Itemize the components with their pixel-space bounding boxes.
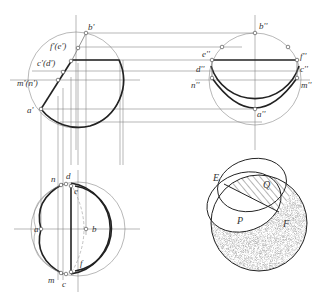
label-mn-prime: m'(n') [17, 78, 38, 88]
label-m-double: m'' [301, 80, 312, 90]
label-c: c [62, 279, 66, 289]
point-a-top [39, 227, 43, 231]
point-cd-front [69, 59, 73, 63]
label-a-prime: a' [27, 105, 35, 115]
point-mn-front [56, 78, 60, 82]
point-n-side [210, 76, 214, 80]
point-a-front [39, 107, 43, 111]
label-e-double: e'' [202, 49, 211, 59]
top-view: n d e a b f m c [14, 170, 140, 292]
label-m: m [48, 275, 55, 285]
label-f-double: f'' [300, 51, 307, 61]
label-fe-prime: f'(e') [50, 41, 66, 51]
front-view: b' f'(e') c'(d') m'(n') a' [10, 15, 140, 150]
label-b-prime: b' [88, 22, 96, 32]
label-a-double: a'' [257, 109, 266, 119]
label-d: d [66, 171, 71, 181]
point-m-side [295, 76, 299, 80]
point-e-top [69, 184, 73, 188]
point-d-top [64, 182, 68, 186]
point-fe-front [76, 46, 80, 50]
label-f: f [80, 258, 84, 268]
point-f-side [286, 45, 290, 49]
label-e: e [74, 186, 78, 196]
axonometric-view: E Q P F [198, 151, 307, 271]
label-b-double: b'' [259, 21, 268, 31]
label-c-double: c'' [300, 64, 309, 74]
label-P: P [236, 215, 243, 226]
point-b-side [253, 31, 257, 35]
point-f-top [69, 270, 73, 274]
point-c-top [64, 272, 68, 276]
label-F: F [282, 218, 290, 229]
point-x-front [61, 70, 65, 74]
point-c-side [295, 58, 299, 62]
label-b: b [92, 224, 97, 234]
side-view: b'' e'' f'' d'' c'' n'' m'' a'' [191, 15, 312, 150]
label-cd-prime: c'(d') [37, 58, 55, 68]
label-d-double: d'' [196, 64, 205, 74]
point-m-top [59, 271, 63, 275]
label-E: E [212, 172, 219, 183]
label-n: n [51, 174, 56, 184]
label-n-double: n'' [191, 80, 200, 90]
point-d-side [210, 58, 214, 62]
point-n-top [59, 183, 63, 187]
point-e-side [220, 45, 224, 49]
sphere-section-projection-diagram: b' f'(e') c'(d') m'(n') a' b'' e'' f'' d… [0, 0, 324, 303]
point-b-top [84, 227, 88, 231]
front-visible-outline [41, 60, 123, 127]
label-a: a [34, 224, 39, 234]
label-Q: Q [263, 179, 271, 190]
